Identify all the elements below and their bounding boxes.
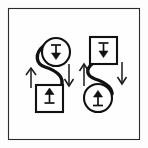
figure-canvas: Two-stage transfer diagram (0, 0, 148, 148)
diagram-svg (0, 0, 148, 148)
outer-border-frame (9, 9, 140, 140)
